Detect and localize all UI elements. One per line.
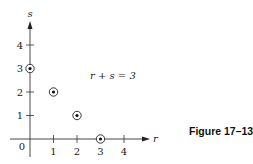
origin-label: 0 <box>19 141 25 152</box>
x-axis-arrow-icon <box>142 137 150 142</box>
x-tick-label: 3 <box>97 146 103 157</box>
figure-plot: 1 2 3 4 1 2 3 4 0 r s r + s = 3 <box>0 0 253 164</box>
y-tick-label: 2 <box>17 87 23 98</box>
data-point <box>73 111 81 119</box>
x-tick-label: 2 <box>74 146 80 157</box>
data-point <box>96 135 104 143</box>
y-tick-label: 4 <box>17 40 23 51</box>
figure-caption: Figure 17–13 <box>189 125 253 137</box>
y-tick-label: 3 <box>17 63 23 74</box>
y-tick-label: 1 <box>17 110 23 121</box>
x-tick-label: 4 <box>121 146 127 157</box>
y-axis-label: s <box>27 8 32 19</box>
data-point <box>49 88 57 96</box>
equation-label: r + s = 3 <box>90 70 136 81</box>
x-tick-label: 1 <box>50 146 56 157</box>
data-point <box>26 64 34 72</box>
y-axis-arrow-icon <box>28 21 33 29</box>
x-axis-label: r <box>153 133 159 144</box>
